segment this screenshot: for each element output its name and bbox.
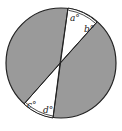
label-b: b° bbox=[84, 24, 94, 34]
label-d: d° bbox=[43, 105, 53, 115]
label-c: c° bbox=[27, 100, 37, 110]
label-a: a° bbox=[70, 13, 80, 23]
circle-chord-diagram: a° b° c° d° bbox=[0, 0, 122, 131]
